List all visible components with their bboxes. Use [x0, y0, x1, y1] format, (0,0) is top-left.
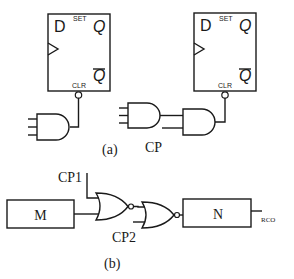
and-gate-left	[28, 114, 69, 140]
and-gate-icon	[183, 109, 215, 135]
flipflop-left-clr-label: CLR	[72, 82, 86, 89]
rco-label: RCO	[261, 216, 275, 224]
nor-gate-1	[96, 193, 134, 220]
cp1-label: CP1	[58, 170, 82, 185]
and-gate-middle-first	[119, 103, 183, 128]
nor-gate-icon	[96, 193, 128, 220]
cp2-label: CP2	[112, 230, 136, 245]
nor-inversion-bubble-icon	[129, 204, 134, 209]
flipflop-right-d-label: D	[200, 17, 212, 34]
caption-b: (b)	[104, 256, 121, 272]
clr-inversion-bubble-icon	[222, 92, 228, 98]
circuit-diagram: D SET Q Q CLR D SET Q Q CLR	[0, 0, 294, 279]
nor-inversion-bubble-icon	[175, 213, 180, 218]
flipflop-left-d-label: D	[54, 18, 66, 35]
flipflop-left-q-label: Q	[93, 18, 105, 35]
block-n-label: N	[213, 207, 223, 222]
block-m-label: M	[34, 208, 47, 223]
clr-inversion-bubble-icon	[75, 92, 81, 98]
nor1-output-wire	[134, 207, 146, 208]
and-gate-icon	[37, 114, 69, 140]
flipflop-right: D SET Q Q CLR	[194, 13, 256, 98]
flipflop-right-clr-label: CLR	[218, 82, 232, 89]
clr-wire-right	[215, 98, 225, 122]
cp-label: CP	[145, 140, 162, 155]
nor-gate-icon	[142, 202, 174, 228]
flipflop-left: D SET Q Q CLR	[48, 14, 110, 98]
nor-gate-2	[142, 202, 180, 228]
and-gate-icon	[128, 103, 160, 128]
clr-wire-left	[70, 98, 79, 127]
and-gate-middle-second	[162, 109, 215, 135]
caption-a: (a)	[102, 142, 118, 158]
flipflop-right-q-label: Q	[239, 17, 251, 34]
flipflop-left-set-label: SET	[73, 15, 87, 22]
flipflop-right-set-label: SET	[219, 15, 233, 22]
